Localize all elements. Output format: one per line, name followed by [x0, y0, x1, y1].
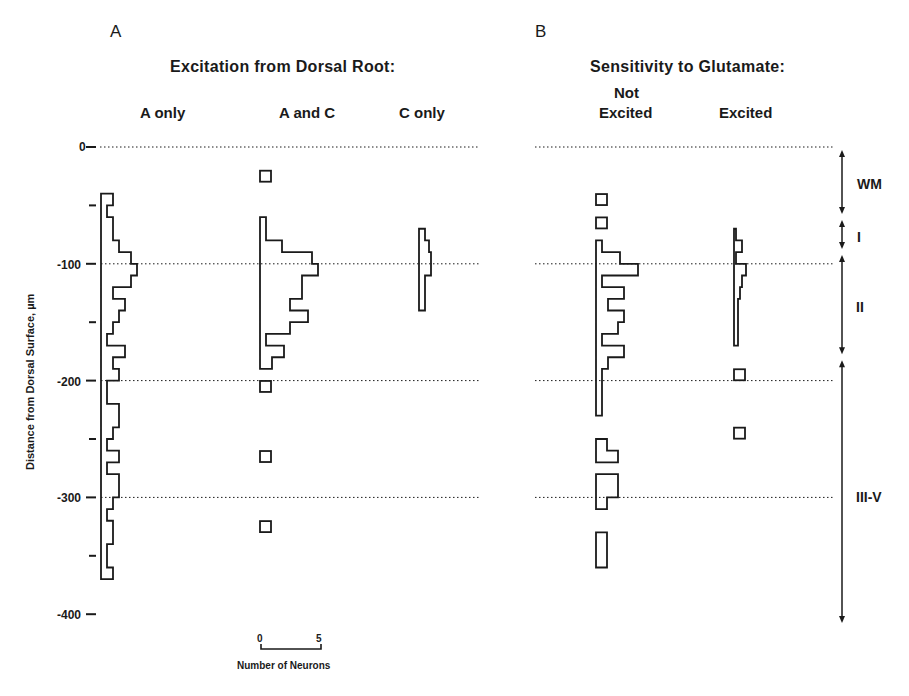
histogram-bars — [101, 171, 746, 579]
y-axis-ticks — [86, 147, 96, 614]
histogram-plot — [0, 0, 909, 696]
layer-arrows — [839, 150, 845, 623]
depth-gridlines — [100, 147, 835, 497]
scale-bar — [261, 644, 321, 649]
